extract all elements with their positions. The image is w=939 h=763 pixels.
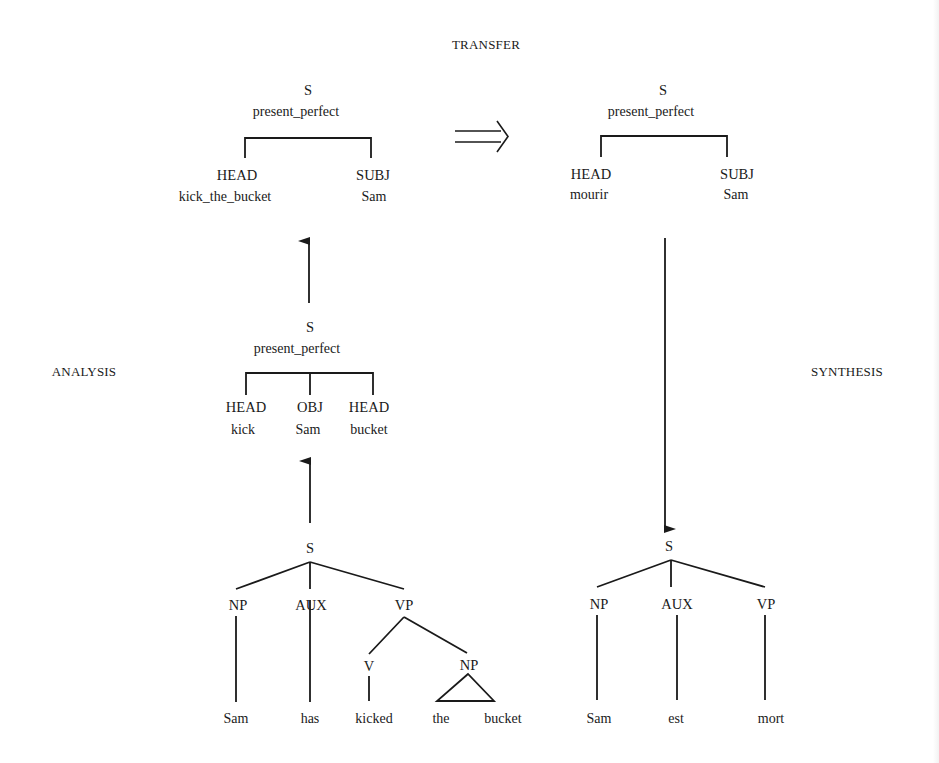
role-value: Sam	[362, 189, 387, 204]
role-label: HEAD	[217, 167, 257, 183]
role-value: kick_the_bucket	[179, 189, 272, 204]
node-label: NP	[229, 597, 248, 613]
triangle-abbreviation	[437, 674, 494, 701]
stage-label-transfer: TRANSFER	[452, 37, 520, 52]
analysis-intermediate-structure: S present_perfect HEAD kick OBJ Sam HEAD…	[226, 319, 389, 437]
role-value: Sam	[296, 422, 321, 437]
bracket-connector	[246, 373, 373, 395]
stage-label-synthesis: SYNTHESIS	[811, 364, 883, 379]
leaf-word: mort	[758, 711, 785, 726]
node-label: S	[659, 82, 667, 98]
role-label: HEAD	[349, 399, 389, 415]
double-right-arrow-icon	[455, 121, 508, 152]
leaf-word: Sam	[224, 711, 249, 726]
role-label: OBJ	[297, 399, 323, 415]
role-label: SUBJ	[720, 166, 754, 182]
leaf-word: the	[432, 711, 449, 726]
bracket-connector	[601, 136, 727, 157]
feature-label: present_perfect	[608, 104, 694, 119]
stage-label-analysis: ANALYSIS	[52, 364, 117, 379]
leaf-word: kicked	[355, 711, 392, 726]
target-syntax-tree: S NP AUX VP Sam est mort	[587, 538, 785, 726]
mt-transfer-diagram: TRANSFER ANALYSIS SYNTHESIS S present_pe…	[0, 0, 939, 763]
node-label: AUX	[661, 596, 693, 612]
leaf-word: Sam	[587, 711, 612, 726]
tree-edge	[236, 562, 404, 589]
role-label: HEAD	[571, 166, 611, 182]
node-label: NP	[460, 657, 479, 673]
node-label: S	[306, 540, 314, 556]
feature-label: present_perfect	[254, 341, 340, 356]
node-label: S	[306, 319, 314, 335]
role-label: SUBJ	[356, 167, 390, 183]
node-label: NP	[590, 596, 609, 612]
node-label: S	[304, 82, 312, 98]
node-label: AUX	[295, 597, 327, 613]
tree-edge	[369, 617, 467, 654]
tree-edge	[597, 615, 765, 700]
feature-label: present_perfect	[253, 104, 339, 119]
bracket-connector	[245, 138, 371, 158]
transfer-source-structure: S present_perfect HEAD kick_the_bucket S…	[179, 82, 391, 204]
leaf-word: bucket	[484, 711, 521, 726]
leaf-word: est	[668, 711, 684, 726]
role-value: kick	[231, 422, 255, 437]
tree-edge	[236, 600, 310, 702]
leaf-word: has	[301, 711, 320, 726]
role-value: Sam	[724, 187, 749, 202]
role-value: mourir	[570, 187, 608, 202]
scan-edge-shadow	[933, 0, 939, 763]
node-label: VP	[757, 596, 776, 612]
node-label: V	[364, 658, 375, 674]
node-label: VP	[395, 597, 414, 613]
source-syntax-tree: S NP AUX VP V NP Sam has kicked the buck…	[224, 540, 522, 726]
node-label: S	[665, 538, 673, 554]
transfer-target-structure: S present_perfect HEAD mourir SUBJ Sam	[570, 82, 754, 202]
role-value: bucket	[350, 422, 387, 437]
role-label: HEAD	[226, 399, 266, 415]
tree-edge	[597, 560, 765, 587]
